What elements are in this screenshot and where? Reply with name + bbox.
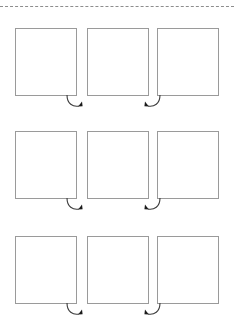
cut-here-dashed-line: [0, 6, 234, 7]
panel-row: [0, 131, 234, 209]
storyboard-panel[interactable]: [157, 131, 219, 199]
storyboard-sheet: [0, 0, 234, 330]
storyboard-panel[interactable]: [15, 236, 77, 304]
storyboard-panel[interactable]: [157, 236, 219, 304]
storyboard-panel[interactable]: [157, 28, 219, 96]
storyboard-panel[interactable]: [15, 131, 77, 199]
storyboard-panel[interactable]: [87, 236, 149, 304]
panel-row: [0, 28, 234, 106]
storyboard-panel[interactable]: [87, 28, 149, 96]
panel-row: [0, 236, 234, 314]
storyboard-panel[interactable]: [15, 28, 77, 96]
storyboard-panel[interactable]: [87, 131, 149, 199]
